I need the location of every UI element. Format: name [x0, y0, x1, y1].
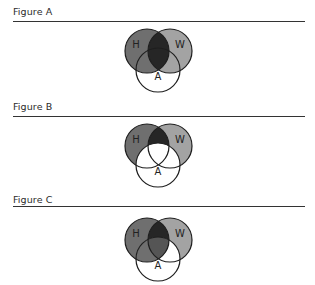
- label-a: A: [155, 166, 162, 177]
- label-w: W: [175, 39, 185, 50]
- figure-a: Figure A H W A: [0, 0, 315, 95]
- venn-diagram-c: H W A: [0, 190, 315, 285]
- label-a: A: [155, 71, 162, 82]
- label-w: W: [175, 228, 185, 239]
- label-w: W: [175, 134, 185, 145]
- label-h: H: [132, 134, 140, 145]
- label-a: A: [155, 260, 162, 271]
- label-h: H: [132, 39, 140, 50]
- figure-b: Figure B H W A: [0, 95, 315, 190]
- label-h: H: [132, 228, 140, 239]
- figure-c: Figure C H W A: [0, 190, 315, 285]
- venn-diagram-b: H W A: [0, 95, 315, 190]
- venn-diagram-a: H W A: [0, 0, 315, 95]
